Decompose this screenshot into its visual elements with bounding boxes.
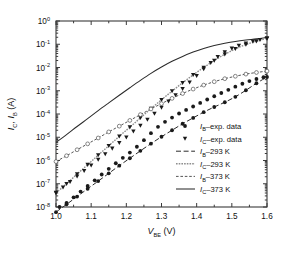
series-marker-2 bbox=[107, 130, 111, 134]
scatter-point-0 bbox=[79, 190, 83, 194]
x-tick-label-4: 1.4 bbox=[191, 212, 203, 221]
series-marker-2 bbox=[244, 72, 248, 76]
series-marker-3 bbox=[233, 95, 237, 99]
scatter-point-0 bbox=[65, 201, 69, 205]
scatter-point-0 bbox=[198, 101, 202, 105]
scatter-point-0 bbox=[262, 75, 266, 79]
scatter-point-0 bbox=[100, 173, 104, 177]
series-marker-3 bbox=[244, 88, 248, 92]
legend-label-ic-exp: IC–exp. data bbox=[200, 135, 242, 145]
scatter-point-0 bbox=[107, 167, 111, 171]
series-marker-3 bbox=[170, 128, 174, 132]
series-marker-2 bbox=[265, 69, 269, 73]
scatter-point-0 bbox=[233, 85, 237, 89]
series-marker-3 bbox=[255, 81, 259, 85]
scatter-point-0 bbox=[255, 77, 259, 81]
series-marker-3 bbox=[75, 195, 79, 199]
x-tick-label-0: 1.0 bbox=[50, 212, 62, 221]
series-marker-3 bbox=[96, 179, 100, 183]
series-marker-2 bbox=[202, 83, 206, 87]
scatter-point-0 bbox=[142, 138, 146, 142]
series-marker-3 bbox=[265, 75, 269, 79]
series-marker-2 bbox=[191, 87, 195, 91]
scatter-point-0 bbox=[212, 94, 216, 98]
series-marker-2 bbox=[54, 160, 58, 164]
series-marker-2 bbox=[255, 71, 259, 75]
series-marker-3 bbox=[139, 149, 143, 153]
scatter-point-0 bbox=[170, 116, 174, 120]
series-marker-2 bbox=[181, 92, 185, 96]
figure-container: 1.01.11.21.31.41.51.610010-110-210-310-4… bbox=[0, 0, 289, 254]
scatter-point-0 bbox=[114, 161, 118, 165]
scatter-point-0 bbox=[240, 82, 244, 86]
scatter-point-0 bbox=[149, 131, 153, 135]
scatter-point-0 bbox=[58, 205, 62, 209]
chart-background bbox=[0, 0, 289, 254]
series-marker-2 bbox=[212, 80, 216, 84]
scatter-point-0 bbox=[93, 178, 97, 182]
x-tick-label-3: 1.3 bbox=[156, 212, 168, 221]
series-marker-2 bbox=[86, 142, 90, 146]
series-marker-3 bbox=[212, 105, 216, 109]
series-marker-2 bbox=[160, 102, 164, 106]
scatter-point-0 bbox=[86, 184, 90, 188]
series-marker-2 bbox=[65, 154, 69, 158]
scatter-point-0 bbox=[219, 91, 223, 95]
series-marker-2 bbox=[75, 148, 79, 152]
x-tick-label-5: 1.5 bbox=[226, 212, 238, 221]
series-marker-2 bbox=[149, 107, 153, 111]
scatter-point-0 bbox=[163, 120, 167, 124]
scatter-point-0 bbox=[72, 195, 76, 199]
scatter-point-0 bbox=[184, 108, 188, 112]
x-tick-label-6: 1.6 bbox=[261, 212, 273, 221]
series-marker-2 bbox=[117, 124, 121, 128]
series-marker-3 bbox=[223, 100, 227, 104]
series-marker-3 bbox=[202, 110, 206, 114]
scatter-point-0 bbox=[226, 88, 230, 92]
x-tick-label-2: 1.2 bbox=[121, 212, 133, 221]
x-axis-title: VBE (V) bbox=[148, 226, 176, 238]
series-marker-3 bbox=[107, 171, 111, 175]
scatter-point-0 bbox=[191, 105, 195, 109]
legend-label-ib-exp: IB–exp. data bbox=[200, 122, 242, 132]
scatter-point-0 bbox=[121, 156, 125, 160]
scatter-point-0 bbox=[177, 112, 181, 116]
series-marker-2 bbox=[128, 119, 132, 123]
series-marker-3 bbox=[117, 164, 121, 168]
scatter-point-0 bbox=[205, 98, 209, 102]
x-tick-label-1: 1.1 bbox=[85, 212, 97, 221]
series-marker-2 bbox=[170, 96, 174, 100]
series-marker-3 bbox=[128, 156, 132, 160]
scatter-point-0 bbox=[128, 151, 132, 155]
scatter-point-0 bbox=[135, 145, 139, 149]
series-marker-2 bbox=[96, 136, 100, 140]
chart-svg: 1.01.11.21.31.41.51.610010-110-210-310-4… bbox=[0, 0, 289, 254]
series-marker-2 bbox=[223, 77, 227, 81]
series-marker-3 bbox=[149, 142, 153, 146]
series-marker-2 bbox=[139, 113, 143, 117]
legend-marker-ib-exp bbox=[183, 124, 187, 128]
scatter-point-0 bbox=[248, 79, 252, 83]
series-marker-2 bbox=[233, 74, 237, 78]
series-marker-3 bbox=[160, 135, 164, 139]
scatter-point-0 bbox=[156, 125, 160, 129]
series-marker-3 bbox=[191, 116, 195, 120]
